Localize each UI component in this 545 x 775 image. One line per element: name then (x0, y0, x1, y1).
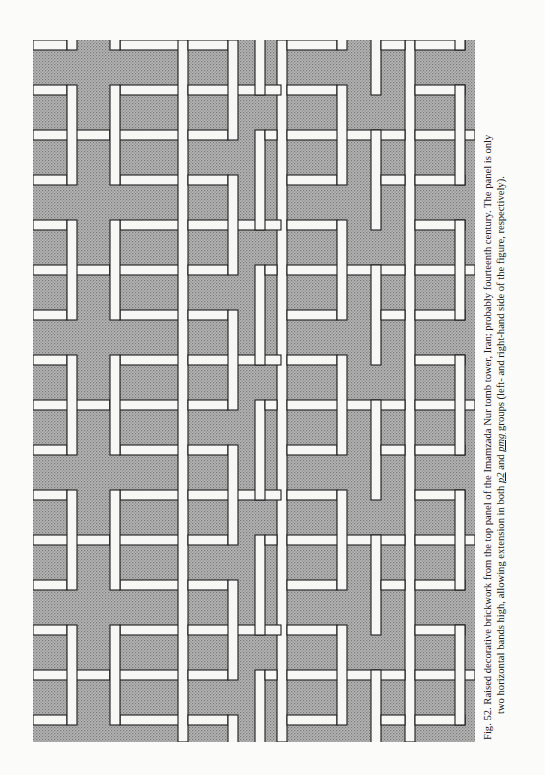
horizontal-bar (381, 175, 405, 185)
vertical-bar (228, 445, 238, 545)
horizontal-bar (265, 265, 277, 275)
vertical-bar (67, 220, 77, 320)
vertical-bar (337, 85, 347, 185)
vertical-bar (371, 535, 381, 635)
horizontal-bar (120, 40, 180, 50)
caption-text: two horizontal bands high, allowing exte… (495, 483, 506, 714)
horizontal-bar (188, 445, 228, 455)
horizontal-bar (120, 175, 180, 185)
vertical-bar (67, 490, 77, 590)
horizontal-bar (287, 310, 337, 320)
horizontal-bar (33, 355, 67, 365)
horizontal-bar (381, 310, 405, 320)
horizontal-bar (287, 220, 337, 230)
horizontal-bar (287, 40, 337, 50)
figure-caption: Fig. 52. Raised decorative brickwork fro… (481, 40, 507, 740)
vertical-bar (371, 40, 381, 95)
horizontal-bar (415, 670, 475, 680)
vertical-bar (67, 40, 77, 50)
vertical-bar (337, 490, 347, 590)
horizontal-bar (33, 310, 67, 320)
vertical-bar (110, 490, 120, 590)
horizontal-bar (381, 715, 405, 725)
vertical-bar (455, 490, 465, 590)
vertical-bar (255, 40, 265, 95)
vertical-bar (371, 400, 381, 500)
horizontal-bar (188, 715, 228, 725)
horizontal-bar (120, 445, 180, 455)
vertical-bar (255, 130, 265, 230)
group-pmg: pmg (495, 434, 506, 452)
long-vertical-bar (178, 40, 188, 742)
vertical-bar (228, 310, 238, 410)
vertical-bar (337, 220, 347, 320)
horizontal-bar (287, 355, 337, 365)
vertical-bar (67, 625, 77, 725)
horizontal-bar (287, 445, 337, 455)
long-vertical-bar (277, 40, 287, 742)
vertical-bar (337, 625, 347, 725)
horizontal-bar (415, 400, 475, 410)
horizontal-bar (120, 580, 180, 590)
vertical-bar (110, 625, 120, 725)
vertical-bar (255, 400, 265, 500)
horizontal-bar (120, 355, 180, 365)
caption-text: and (495, 452, 506, 473)
caption-text: groups (left- and right-hand side of the… (495, 176, 506, 433)
horizontal-bar (33, 220, 67, 230)
vertical-bar (67, 355, 77, 455)
vertical-bar (255, 535, 265, 635)
horizontal-bar (188, 130, 228, 140)
vertical-bar (455, 85, 465, 185)
horizontal-bar (188, 310, 228, 320)
horizontal-bar (287, 85, 337, 95)
vertical-bar (371, 130, 381, 230)
vertical-bar (228, 580, 238, 680)
horizontal-bar (265, 535, 277, 545)
vertical-bar (337, 40, 347, 50)
vertical-bar (371, 265, 381, 365)
vertical-bar (455, 355, 465, 455)
vertical-bar (228, 40, 238, 140)
vertical-bar (110, 40, 120, 50)
horizontal-bar (287, 580, 337, 590)
horizontal-bar (188, 40, 228, 50)
vertical-bar (228, 175, 238, 275)
vertical-bar (455, 625, 465, 725)
horizontal-bar (188, 175, 228, 185)
vertical-bar (255, 265, 265, 365)
horizontal-bar (120, 625, 180, 635)
vertical-bar (255, 670, 265, 742)
horizontal-bar (33, 625, 67, 635)
horizontal-bar (120, 85, 180, 95)
horizontal-bar (120, 715, 180, 725)
horizontal-bar (188, 265, 228, 275)
vertical-bar (110, 355, 120, 455)
horizontal-bar (287, 715, 337, 725)
long-vertical-bar (405, 40, 415, 742)
horizontal-bar (33, 580, 67, 590)
horizontal-bar (265, 130, 277, 140)
horizontal-bar (120, 220, 180, 230)
vertical-bar (110, 220, 120, 320)
vertical-bar (67, 85, 77, 185)
vertical-bar (337, 355, 347, 455)
horizontal-bar (120, 310, 180, 320)
horizontal-bar (33, 490, 67, 500)
horizontal-bar (188, 580, 228, 590)
horizontal-bar (381, 580, 405, 590)
vertical-bar (455, 220, 465, 320)
horizontal-bar (120, 490, 180, 500)
horizontal-bar (415, 535, 475, 545)
horizontal-bar (415, 265, 475, 275)
horizontal-bar (415, 130, 475, 140)
horizontal-bar (33, 40, 67, 50)
horizontal-bar (33, 715, 67, 725)
brickwork-figure (33, 40, 475, 742)
horizontal-bar (265, 670, 277, 680)
vertical-bar (455, 40, 465, 50)
horizontal-bar (188, 400, 228, 410)
horizontal-bar (33, 445, 67, 455)
horizontal-bar (33, 85, 67, 95)
horizontal-bar (381, 445, 405, 455)
